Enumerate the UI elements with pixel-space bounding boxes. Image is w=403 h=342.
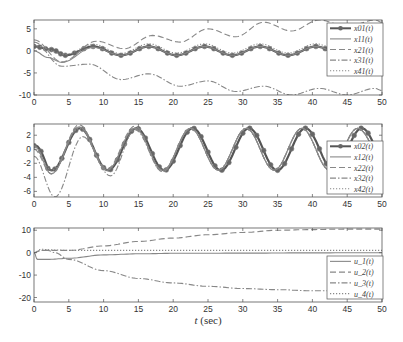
- x-tick-label: 40: [308, 97, 318, 107]
- x-tick-label: 0: [32, 199, 37, 209]
- y-tick-label: 5: [26, 24, 31, 34]
- data-marker: [63, 53, 68, 58]
- y-tick-label: 10: [22, 225, 32, 235]
- y-tick-label: -4: [23, 172, 31, 182]
- figure: 0510152025303540455050-5-10x01(t)x11(t)x…: [0, 0, 403, 342]
- x-tick-label: 25: [203, 304, 213, 314]
- x-axis-label: t (sec): [194, 314, 222, 327]
- legend-entry: x41(t): [353, 67, 373, 76]
- x-tick-label: 0: [32, 304, 37, 314]
- panel-middle: 0510152025303540455020-2-4-6x02(t)x12(t)…: [23, 124, 387, 209]
- series-line: [34, 229, 382, 253]
- y-tick-label: -5: [23, 68, 31, 78]
- y-tick-label: 2: [26, 130, 31, 140]
- x-tick-label: 10: [99, 199, 109, 209]
- legend-entry: u_4(t): [354, 290, 374, 299]
- legend: u_1(t)u_2(t)u_3(t)u_4(t): [327, 256, 383, 299]
- legend: x02(t)x12(t)x22(t)x32(t)x42(t): [327, 141, 383, 194]
- y-tick-label: -20: [19, 293, 32, 303]
- x-tick-label: 30: [238, 199, 248, 209]
- data-marker: [317, 146, 322, 151]
- x-tick-label: 0: [32, 97, 37, 107]
- panel-top: 0510152025303540455050-5-10x01(t)x11(t)x…: [19, 20, 387, 107]
- legend-entry: x02(t): [353, 142, 373, 151]
- y-tick-label: 0: [26, 46, 31, 56]
- x-tick-label: 25: [203, 199, 213, 209]
- x-tick-label: 40: [308, 304, 318, 314]
- y-tick-label: 0: [26, 144, 31, 154]
- x-tick-label: 30: [238, 304, 248, 314]
- x-tick-label: 45: [342, 199, 352, 209]
- x-tick-label: 30: [238, 97, 248, 107]
- legend-entry: x01(t): [353, 24, 373, 33]
- legend-entry: x42(t): [353, 185, 373, 194]
- legend-entry: u_2(t): [354, 268, 374, 277]
- x-tick-label: 10: [99, 304, 109, 314]
- y-tick-label: -6: [23, 186, 31, 196]
- x-tick-label: 20: [168, 199, 178, 209]
- x-tick-label: 5: [66, 97, 71, 107]
- x-tick-label: 5: [66, 304, 71, 314]
- x-tick-label: 5: [66, 199, 71, 209]
- legend-entry: x22(t): [353, 164, 373, 173]
- y-tick-label: -10: [19, 270, 32, 280]
- legend-entry: x31(t): [353, 56, 373, 65]
- x-tick-label: 25: [203, 97, 213, 107]
- legend-entry: x12(t): [353, 153, 373, 162]
- data-marker: [310, 132, 315, 137]
- x-tick-label: 15: [134, 304, 144, 314]
- data-marker: [352, 133, 357, 138]
- x-tick-label: 15: [134, 199, 144, 209]
- series-line: [34, 249, 382, 252]
- legend-entry: x11(t): [353, 35, 373, 44]
- legend: x01(t)x11(t)x21(t)x31(t)x41(t): [327, 23, 383, 76]
- x-tick-label: 40: [308, 199, 318, 209]
- data-marker: [366, 131, 371, 136]
- x-tick-label: 35: [273, 97, 283, 107]
- x-tick-label: 50: [377, 304, 387, 314]
- legend-entry: x32(t): [353, 174, 373, 183]
- x-tick-label: 50: [377, 97, 387, 107]
- y-tick-label: -2: [23, 158, 31, 168]
- x-tick-label: 20: [168, 304, 178, 314]
- panel-bottom: 05101520253035404550100-10-20u_1(t)u_2(t…: [19, 225, 387, 314]
- x-tick-label: 20: [168, 97, 178, 107]
- x-tick-label: 15: [134, 97, 144, 107]
- x-tick-label: 45: [342, 97, 352, 107]
- x-tick-label: 35: [273, 304, 283, 314]
- legend-entry: u_1(t): [354, 257, 374, 266]
- x-tick-label: 45: [342, 304, 352, 314]
- data-marker: [289, 146, 294, 151]
- y-tick-label: -10: [19, 90, 32, 100]
- legend-entry: u_3(t): [354, 279, 374, 288]
- x-tick-label: 10: [99, 97, 109, 107]
- x-tick-label: 50: [377, 199, 387, 209]
- y-tick-label: 0: [26, 248, 31, 258]
- data-marker: [282, 161, 287, 166]
- x-tick-label: 35: [273, 199, 283, 209]
- legend-entry: x21(t): [353, 46, 373, 55]
